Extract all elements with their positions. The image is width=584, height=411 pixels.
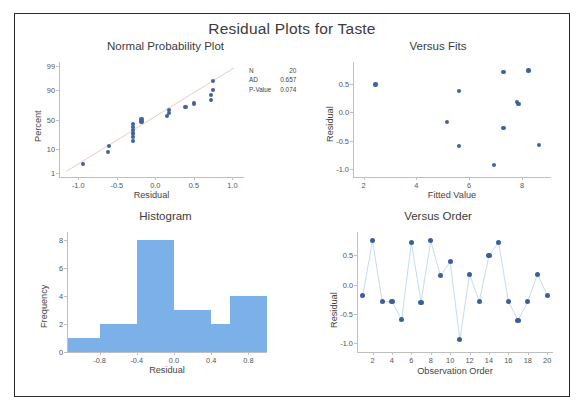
versus-order-x-tick-mark xyxy=(547,352,548,355)
normal-probability-x-tick-mark xyxy=(194,177,195,180)
versus-fits-y-axis-line xyxy=(353,62,354,177)
stat-label-pvalue: P-Value xyxy=(249,85,271,94)
versus-order-x-tick-mark xyxy=(392,352,393,355)
histogram-x-tick-mark xyxy=(211,352,212,355)
reference-line xyxy=(67,68,234,171)
versus-fits-x-tick-mark xyxy=(469,177,470,180)
versus-order-point xyxy=(409,240,414,245)
panel-versus-order: Versus Order Residual Observation Order … xyxy=(311,210,565,388)
versus-order-x-tick-mark xyxy=(411,352,412,355)
histogram-x-axis-title: Residual xyxy=(67,365,267,375)
panel-versus-fits: Versus Fits Residual Fitted Value -1.0-0… xyxy=(311,40,565,205)
versus-fits-point xyxy=(537,143,541,147)
normal-probability-x-tick-mark xyxy=(78,177,79,180)
normal-probability-x-axis-line xyxy=(59,177,244,178)
histogram-x-tick-mark xyxy=(100,352,101,355)
versus-order-x-axis-line xyxy=(357,352,553,353)
versus-fits-x-tick: 8 xyxy=(520,181,524,190)
versus-order-point xyxy=(535,272,540,277)
histogram-x-tick: 0.8 xyxy=(243,356,253,365)
versus-order-y-axis-line xyxy=(357,232,358,352)
histogram-x-tick-mark xyxy=(248,352,249,355)
versus-fits-y-tick-mark xyxy=(350,141,353,142)
versus-order-x-tick-mark xyxy=(450,352,451,355)
versus-order-x-tick-mark xyxy=(508,352,509,355)
versus-fits-x-tick-mark xyxy=(416,177,417,180)
histogram-y-tick-mark xyxy=(64,296,67,297)
histogram-x-tick-mark xyxy=(174,352,175,355)
versus-order-y-tick-mark xyxy=(354,255,357,256)
normal-probability-y-axis-line xyxy=(59,62,60,177)
versus-order-y-tick: -0.5 xyxy=(327,309,353,318)
normal-probability-x-tick-mark xyxy=(232,177,233,180)
normal-probability-y-tick-mark xyxy=(56,149,59,150)
versus-order-x-tick: 8 xyxy=(429,356,433,365)
normal-probability-y-tick: 1 xyxy=(29,168,55,177)
normal-probability-y-tick-mark xyxy=(56,120,59,121)
versus-order-x-tick: 2 xyxy=(370,356,374,365)
versus-fits-x-tick-mark xyxy=(364,177,365,180)
versus-order-x-tick: 20 xyxy=(543,356,551,365)
versus-order-x-tick-mark xyxy=(373,352,374,355)
normal-probability-plot-title: Normal Probability Plot xyxy=(23,40,308,52)
normal-probability-y-tick-mark xyxy=(56,66,59,67)
normal-probability-y-tick: 99 xyxy=(29,62,55,71)
versus-fits-plot-area xyxy=(353,62,551,177)
histogram-x-tick: -0.8 xyxy=(93,356,106,365)
histogram-plot-area xyxy=(67,232,267,352)
versus-fits-point xyxy=(457,89,461,93)
versus-order-x-axis-title: Observation Order xyxy=(357,366,553,376)
versus-order-point xyxy=(545,293,550,298)
stat-value-ad: 0.657 xyxy=(271,75,296,84)
versus-fits-x-tick: 6 xyxy=(467,181,471,190)
panel-normal-probability-plot: Normal Probability Plot N 20 AD 0.657 P-… xyxy=(23,40,308,205)
stat-value-n: 20 xyxy=(271,66,296,75)
versus-order-point xyxy=(486,253,491,258)
normal-probability-x-tick: 0.0 xyxy=(150,181,160,190)
versus-fits-x-tick: 4 xyxy=(414,181,418,190)
normal-probability-point xyxy=(211,88,215,92)
histogram-bar xyxy=(194,324,231,352)
versus-order-y-tick-mark xyxy=(354,314,357,315)
histogram-y-tick-mark xyxy=(64,352,67,353)
histogram-bar xyxy=(100,324,137,352)
normal-probability-plot-area xyxy=(59,62,244,177)
normal-probability-y-tick: 50 xyxy=(29,115,55,124)
normal-probability-point xyxy=(192,101,196,105)
versus-fits-point xyxy=(373,82,377,86)
versus-fits-title: Versus Fits xyxy=(311,40,565,52)
histogram-bar xyxy=(137,240,174,352)
versus-order-series-line xyxy=(357,232,553,352)
versus-fits-point xyxy=(501,126,505,130)
versus-order-x-tick-mark xyxy=(489,352,490,355)
versus-order-point xyxy=(389,299,394,304)
histogram-x-axis-line xyxy=(67,352,267,353)
versus-order-y-tick: -1.0 xyxy=(327,339,353,348)
versus-order-x-tick: 10 xyxy=(446,356,454,365)
versus-fits-y-tick-mark xyxy=(350,169,353,170)
versus-fits-point xyxy=(445,120,449,124)
residual-plots-frame: Residual Plots for Taste Normal Probabil… xyxy=(14,13,570,397)
versus-fits-point xyxy=(517,102,521,106)
histogram-y-tick: 4 xyxy=(37,292,63,301)
versus-order-plot-area xyxy=(357,232,553,352)
series-polyline xyxy=(363,241,547,340)
normal-probability-reference-line xyxy=(59,62,244,177)
versus-fits-y-tick: 0.0 xyxy=(323,108,349,117)
histogram-y-tick: 2 xyxy=(37,320,63,329)
versus-fits-x-tick-mark xyxy=(522,177,523,180)
histogram-y-tick: 0 xyxy=(37,348,63,357)
normal-probability-point xyxy=(81,162,85,166)
histogram-x-tick: 0.0 xyxy=(169,356,179,365)
versus-order-x-tick: 12 xyxy=(465,356,473,365)
normal-probability-x-tick-mark xyxy=(155,177,156,180)
normal-probability-y-tick: 10 xyxy=(29,144,55,153)
histogram-bar xyxy=(230,296,267,352)
normal-probability-y-tick-mark xyxy=(56,90,59,91)
histogram-y-tick: 6 xyxy=(37,264,63,273)
versus-order-y-tick: 0.0 xyxy=(327,280,353,289)
versus-fits-x-tick: 2 xyxy=(361,181,365,190)
versus-order-x-tick-mark xyxy=(431,352,432,355)
normal-probability-x-tick-mark xyxy=(117,177,118,180)
stat-label-n: N xyxy=(249,66,271,75)
